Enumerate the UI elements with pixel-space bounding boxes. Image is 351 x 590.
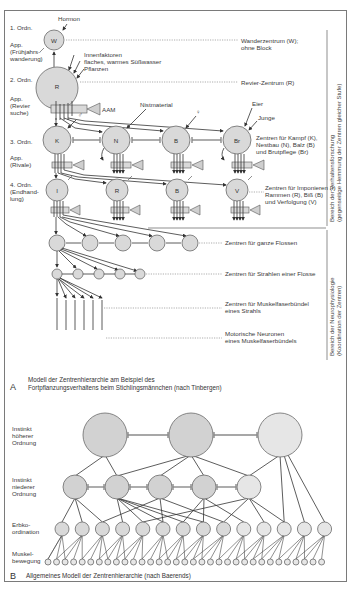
bundle-desc-2: eines Strahls (225, 307, 261, 314)
level3-desc-3: und Brutpflege (Br) (256, 148, 308, 155)
motor-desc-2: eines Muskelfaserbündels (225, 337, 297, 344)
wasser-label: flaches, warmes Süßwasser (84, 58, 161, 65)
fins-desc: Zentren für ganze Flossen (225, 239, 298, 246)
level-4-app-line1: (Endhand- (10, 188, 39, 195)
level-4-release (51, 201, 260, 220)
neuro-bracket-2: (Koordination der Zentren) (336, 286, 342, 356)
node-r4-label: R (115, 187, 120, 194)
level4-desc-2: Rammen (R), Biß (B) (265, 191, 323, 198)
caption-a: A Modell der Zentrenhierarchie am Beispi… (10, 376, 222, 392)
aam-label: AAM (102, 106, 115, 113)
wander-desc-2: ohne Block (241, 44, 273, 51)
level-labels-b: Instinkt höherer Ordnung Instinkt nieder… (12, 425, 41, 564)
level-4-app-line2: lung) (10, 195, 24, 202)
level-3-app-line2: (Rivale) (10, 161, 31, 168)
rays-desc: Zentren für Strahlen einer Flosse (225, 270, 316, 277)
innenfaktoren-label: Innenfaktoren (84, 51, 122, 58)
lower-label-3: Ordnung (12, 490, 37, 497)
muskel-label-2: bewegung (12, 557, 41, 564)
level-4-label: 4. Ordn. (10, 181, 33, 188)
node-b-label: B (174, 137, 178, 144)
diagram-canvas: 1. Ordn. App. (Frühjahrs- wanderung) 2. … (0, 0, 351, 590)
hormon-label: Hormon (58, 15, 81, 22)
node-w-label: W (51, 37, 57, 44)
node-i-label: I (56, 187, 58, 194)
node-r-label: R (55, 83, 60, 90)
higher-label-2: höherer (12, 432, 33, 439)
node-b4-label: B (175, 187, 179, 194)
node-n-label: N (114, 137, 118, 144)
level-3-nodes: K N B Br Zentren für Kampf (K), Nestbau … (43, 126, 318, 155)
caption-b-letter: B (10, 571, 16, 581)
level4-desc-1: Zentren für Imponieren (I) (265, 184, 336, 191)
behavior-bracket-1: Bereich der Verhaltensforschung (329, 135, 335, 222)
lower-label-1: Instinkt (12, 476, 32, 483)
level-2-app-line2: (Revier (10, 102, 30, 109)
caption-a-letter: A (10, 382, 16, 392)
node-w: Hormon W Wanderzentrum (W); ohne Block (40, 15, 298, 52)
caption-a-line2: Fortpflanzungsverhaltens beim Stichlings… (28, 384, 222, 392)
general-hierarchy-model (45, 413, 332, 565)
level3-desc-2: Nestbau (N), Balz (B) (256, 141, 315, 148)
revier-desc: Revier-Zentrum (R) (241, 79, 294, 86)
side-brackets: Bereich der Verhaltensforschung (gegense… (327, 30, 342, 360)
caption-a-line1: Modell der Zentrenhierarchie am Beispiel… (28, 376, 155, 384)
lower-label-2: niederer (12, 483, 35, 490)
erbko-label-2: ordination (12, 528, 40, 535)
aam-triangle (87, 103, 100, 115)
junge-label: Junge (258, 114, 275, 121)
level-labels-a: 1. Ordn. App. (Frühjahrs- wanderung) 2. … (9, 24, 43, 202)
level-1-app-line3: wanderung) (9, 55, 43, 62)
ray-centers: Zentren für Strahlen einer Flosse (52, 269, 316, 279)
erbko-label-1: Erbko- (12, 521, 30, 528)
level-1-app-line2: (Frühjahrs- (10, 48, 40, 55)
wander-desc-1: Wanderzentrum (W); (241, 37, 298, 44)
level-1-app: App. (10, 41, 23, 48)
caption-b-text: Allgemeines Modell der Zentrenhierarchie… (26, 572, 191, 580)
level-2-app: App. (10, 95, 23, 102)
level-2-label: 2. Ordn. (10, 76, 33, 83)
motor-desc-1: Motorische Neuronen (225, 330, 285, 337)
higher-label-3: Ordnung (12, 439, 37, 446)
level4-desc-3: und Verfolgung (V) (265, 198, 317, 205)
level-1-label: 1. Ordn. (10, 24, 33, 31)
nistmaterial-label: Nistmaterial (140, 101, 173, 108)
level-4-nodes: I R B V Zentren für Imponieren (I) Ramme… (46, 176, 336, 205)
motor-neurons (57, 298, 102, 330)
level-3-app: App. (10, 154, 23, 161)
level-2-app-line3: suche) (10, 109, 29, 116)
level3-desc-1: Zentren für Kampf (K), (256, 134, 318, 141)
level-3-label: 3. Ordn. (10, 138, 33, 145)
pflanzen-label: Pflanzen (84, 65, 109, 72)
node-br-label: Br (234, 137, 240, 144)
bundle-desc-1: Zentren für Muskelfaserbündel (225, 300, 309, 307)
female-symbol: ♀ (196, 108, 201, 115)
male-symbol: ♂ (78, 111, 83, 118)
caption-b: B Allgemeines Modell der Zentrenhierarch… (10, 571, 191, 581)
behavior-bracket-2: (gegenseitige Hemmung der Zentren gleich… (336, 84, 342, 222)
eier-label: Eier (252, 100, 263, 107)
higher-label-1: Instinkt (12, 425, 32, 432)
neuro-bracket-1: Bereich der Neurophysiologie (329, 277, 335, 356)
muskel-label-1: Muskel- (12, 550, 34, 557)
fin-centers: Zentren für ganze Flossen (49, 235, 298, 251)
